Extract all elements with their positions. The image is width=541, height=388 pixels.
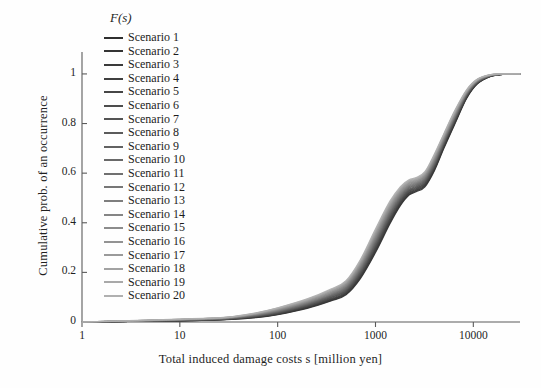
x-tick-label-1: 10 <box>140 329 220 341</box>
legend-item-6[interactable]: Scenario 6 <box>104 99 185 113</box>
legend-label-7: Scenario 7 <box>128 113 179 127</box>
y-axis-symbol-text: F(s) <box>110 10 132 25</box>
y-tick-label-4: 0.8 <box>28 116 76 128</box>
legend-swatch-icon-9 <box>104 146 123 148</box>
legend-swatch-icon-10 <box>104 159 123 161</box>
y-tick-label-3: 0.6 <box>28 165 76 177</box>
legend-item-19[interactable]: Scenario 19 <box>104 276 185 290</box>
legend-swatch-icon-13 <box>104 200 123 202</box>
legend-item-14[interactable]: Scenario 14 <box>104 208 185 222</box>
legend-item-16[interactable]: Scenario 16 <box>104 235 185 249</box>
legend-swatch-icon-20 <box>104 295 123 297</box>
legend-label-10: Scenario 10 <box>128 153 185 167</box>
legend-swatch-icon-11 <box>104 173 123 175</box>
legend-swatch-icon-18 <box>104 268 123 270</box>
legend-swatch-icon-12 <box>104 186 123 188</box>
x-axis-title: Total induced damage costs s [million ye… <box>0 352 541 367</box>
legend-swatch-icon-16 <box>104 241 123 243</box>
y-tick-label-1: 0.2 <box>28 264 76 276</box>
legend-item-12[interactable]: Scenario 12 <box>104 181 185 195</box>
legend-label-3: Scenario 3 <box>128 58 179 72</box>
legend-label-20: Scenario 20 <box>128 289 185 303</box>
legend-label-9: Scenario 9 <box>128 140 179 154</box>
legend-item-7[interactable]: Scenario 7 <box>104 113 185 127</box>
legend: Scenario 1Scenario 2Scenario 3Scenario 4… <box>104 31 185 303</box>
legend-swatch-icon-4 <box>104 78 123 80</box>
legend-item-13[interactable]: Scenario 13 <box>104 194 185 208</box>
legend-label-17: Scenario 17 <box>128 249 185 263</box>
y-tick-label-0: 0 <box>28 314 76 326</box>
legend-item-11[interactable]: Scenario 11 <box>104 167 185 181</box>
legend-label-8: Scenario 8 <box>128 126 179 140</box>
y-axis-title: Cumulative prob. of an occurrence <box>36 36 51 336</box>
legend-label-1: Scenario 1 <box>128 31 179 45</box>
legend-swatch-icon-8 <box>104 132 123 134</box>
legend-item-8[interactable]: Scenario 8 <box>104 126 185 140</box>
legend-item-18[interactable]: Scenario 18 <box>104 262 185 276</box>
y-tick-label-2: 0.4 <box>28 215 76 227</box>
legend-swatch-icon-6 <box>104 105 123 107</box>
legend-swatch-icon-14 <box>104 214 123 216</box>
y-tick-label-5: 1 <box>28 66 76 78</box>
legend-item-3[interactable]: Scenario 3 <box>104 58 185 72</box>
legend-item-15[interactable]: Scenario 15 <box>104 221 185 235</box>
legend-swatch-icon-2 <box>104 50 123 52</box>
x-tick-label-4: 10000 <box>433 329 513 341</box>
figure-cdf-damage-costs: F(s) Total induced damage costs s [milli… <box>0 0 541 388</box>
legend-swatch-icon-7 <box>104 118 123 120</box>
legend-swatch-icon-3 <box>104 64 123 66</box>
x-tick-label-0: 1 <box>42 329 122 341</box>
y-axis-symbol-label: F(s) <box>110 10 132 26</box>
x-tick-label-3: 1000 <box>335 329 415 341</box>
legend-swatch-icon-19 <box>104 281 123 283</box>
legend-label-2: Scenario 2 <box>128 45 179 59</box>
legend-item-4[interactable]: Scenario 4 <box>104 72 185 86</box>
legend-swatch-icon-5 <box>104 91 123 93</box>
legend-item-10[interactable]: Scenario 10 <box>104 153 185 167</box>
legend-label-5: Scenario 5 <box>128 85 179 99</box>
legend-label-16: Scenario 16 <box>128 235 185 249</box>
legend-item-17[interactable]: Scenario 17 <box>104 249 185 263</box>
legend-swatch-icon-17 <box>104 254 123 256</box>
legend-label-13: Scenario 13 <box>128 194 185 208</box>
legend-item-1[interactable]: Scenario 1 <box>104 31 185 45</box>
legend-swatch-icon-1 <box>104 37 123 39</box>
legend-item-5[interactable]: Scenario 5 <box>104 85 185 99</box>
legend-label-18: Scenario 18 <box>128 262 185 276</box>
legend-label-19: Scenario 19 <box>128 276 185 290</box>
legend-label-4: Scenario 4 <box>128 72 179 86</box>
legend-label-15: Scenario 15 <box>128 221 185 235</box>
legend-label-14: Scenario 14 <box>128 208 185 222</box>
legend-label-11: Scenario 11 <box>128 167 185 181</box>
legend-item-20[interactable]: Scenario 20 <box>104 289 185 303</box>
legend-item-9[interactable]: Scenario 9 <box>104 140 185 154</box>
legend-label-12: Scenario 12 <box>128 181 185 195</box>
legend-swatch-icon-15 <box>104 227 123 229</box>
x-tick-label-2: 100 <box>238 329 318 341</box>
legend-label-6: Scenario 6 <box>128 99 179 113</box>
legend-item-2[interactable]: Scenario 2 <box>104 45 185 59</box>
